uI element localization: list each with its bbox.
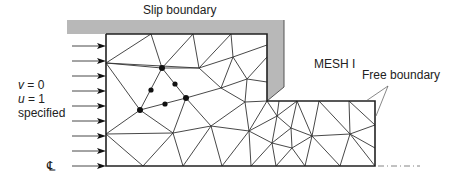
mesh-edge xyxy=(292,148,305,166)
mesh-edge xyxy=(277,116,291,128)
corner-node xyxy=(183,95,189,101)
inlet-specified-label: specified xyxy=(18,106,65,120)
mesh-edge xyxy=(247,79,267,82)
inlet-arrows xyxy=(72,43,106,169)
mesh-edge xyxy=(186,98,211,126)
mesh-edge xyxy=(211,126,222,166)
mesh-edge xyxy=(140,110,173,133)
mesh-edge xyxy=(319,101,350,134)
mesh-edge xyxy=(193,34,199,68)
mesh-edge xyxy=(312,101,319,136)
mesh-edge xyxy=(173,133,183,166)
mesh-edge xyxy=(245,102,249,131)
mesh-edge xyxy=(245,101,267,102)
mesh-edge xyxy=(222,131,249,166)
midside-node xyxy=(162,101,167,106)
mesh-edge xyxy=(276,148,292,166)
mesh-edge xyxy=(267,101,277,116)
mesh-edge xyxy=(312,136,340,166)
mesh-edge xyxy=(305,136,312,166)
mesh-edge xyxy=(272,143,292,148)
mesh-edge xyxy=(233,45,267,57)
mesh-edge xyxy=(221,57,233,88)
mesh-edge xyxy=(221,79,247,88)
mesh-edge xyxy=(247,57,267,79)
mesh-edge xyxy=(106,133,173,134)
mesh-edge xyxy=(106,110,140,134)
mesh-edge xyxy=(249,131,272,143)
midside-node xyxy=(172,81,177,86)
corner-node xyxy=(137,107,143,113)
mesh-edge xyxy=(211,102,245,126)
mesh-edge xyxy=(162,34,193,68)
mesh-edge xyxy=(221,88,245,102)
mesh-edge xyxy=(350,125,375,134)
mesh-edge xyxy=(272,128,291,143)
mesh-edge xyxy=(291,128,292,148)
u-variable: u xyxy=(18,92,25,106)
mesh-edge xyxy=(173,126,211,133)
mesh-edge xyxy=(349,101,375,125)
mesh-edge xyxy=(183,126,211,166)
mesh-edge xyxy=(312,134,350,136)
mesh-edge xyxy=(211,126,249,131)
mesh-edge xyxy=(245,79,247,102)
mesh-edge xyxy=(106,63,140,110)
domain-boundary xyxy=(106,34,375,166)
mesh-edge xyxy=(340,134,350,166)
diagram-stage: Slip boundary MESH I Free boundary v = 0… xyxy=(0,0,452,185)
mesh-edge xyxy=(173,98,186,133)
midside-node xyxy=(148,87,153,92)
mesh-edge xyxy=(349,101,350,134)
mesh-edge xyxy=(143,133,173,166)
inlet-v-condition: v = 0 xyxy=(18,78,44,92)
mesh-edge xyxy=(186,88,221,98)
mesh-edge xyxy=(272,143,276,166)
u-value: = 1 xyxy=(25,92,45,106)
free-boundary-label: Free boundary xyxy=(362,68,440,82)
mesh-edges xyxy=(106,34,375,166)
v-value: = 0 xyxy=(24,78,44,92)
slip-boundary-label: Slip boundary xyxy=(143,3,216,17)
mesh-nodes xyxy=(137,65,189,113)
mesh-edge xyxy=(231,34,233,57)
mesh-diagram xyxy=(0,0,452,185)
mesh-edge xyxy=(277,101,279,116)
mesh-edge xyxy=(199,68,221,88)
inlet-u-condition: u = 1 xyxy=(18,92,45,106)
mesh-edge xyxy=(350,134,375,148)
mesh-edge xyxy=(151,34,162,68)
mesh-edge xyxy=(106,134,143,166)
mesh-name-label: MESH I xyxy=(314,57,355,71)
centerline-symbol: ℄ xyxy=(47,159,55,173)
mesh-edge xyxy=(292,136,312,148)
mesh-edge xyxy=(251,143,272,166)
corner-node xyxy=(159,65,165,71)
mesh-edge xyxy=(233,57,247,79)
mesh-edge xyxy=(106,34,151,63)
mesh-edge xyxy=(350,134,375,166)
mesh-edge xyxy=(272,116,277,143)
mesh-edge xyxy=(249,131,251,166)
